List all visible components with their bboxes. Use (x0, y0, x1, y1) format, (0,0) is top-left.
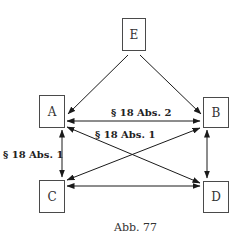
arrow-e-b (140, 55, 201, 114)
node-c-label: C (47, 190, 56, 204)
node-d-label: D (211, 190, 221, 204)
node-a-label: A (48, 105, 57, 119)
node-e: E (122, 18, 146, 51)
node-b-label: B (212, 106, 221, 120)
label-a-c: § 18 Abs. 1 (3, 149, 63, 160)
label-a-b: § 18 Abs. 2 (111, 107, 171, 118)
node-b: B (203, 97, 229, 128)
label-a-d: § 18 Abs. 1 (95, 129, 155, 140)
node-c: C (39, 180, 65, 213)
arrow-e-a (68, 55, 128, 114)
node-e-label: E (130, 28, 139, 42)
figure-caption: Abb. 77 (114, 221, 157, 234)
node-d: D (203, 181, 229, 213)
node-a: A (39, 95, 65, 128)
